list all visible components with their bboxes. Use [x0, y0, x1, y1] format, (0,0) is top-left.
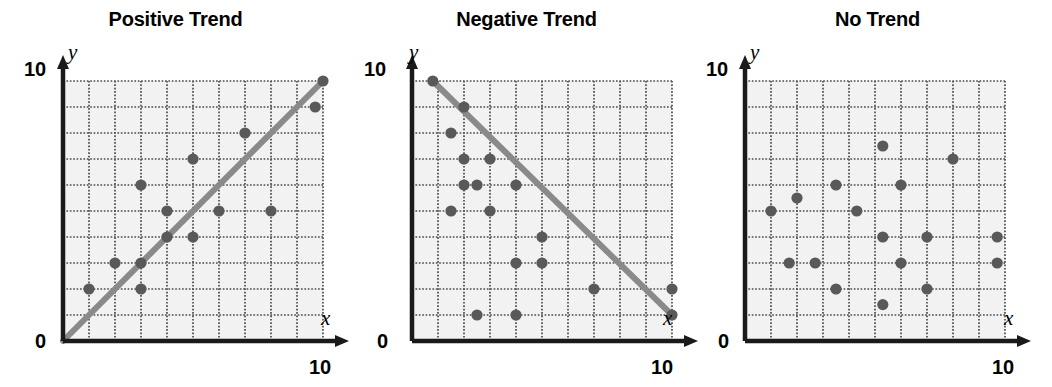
data-point[interactable]	[471, 179, 482, 190]
data-point[interactable]	[877, 299, 888, 310]
data-point[interactable]	[830, 283, 841, 294]
data-point[interactable]	[458, 179, 469, 190]
data-point[interactable]	[921, 283, 932, 294]
data-point[interactable]	[510, 179, 521, 190]
y-axis-label: y	[409, 42, 418, 63]
x-axis-label: x	[321, 308, 330, 329]
y-max-tick-label: 10	[24, 59, 46, 79]
data-point[interactable]	[510, 257, 521, 268]
origin-tick-label: 0	[718, 331, 729, 351]
figure-canvas: Positive Trend 10 0 10 y x Negative Tren…	[0, 0, 1052, 387]
data-point[interactable]	[317, 75, 328, 86]
data-point[interactable]	[83, 283, 94, 294]
data-point[interactable]	[445, 205, 456, 216]
plot-area-negative-trend: 10 0 10 y x	[351, 0, 702, 387]
x-axis-arrow-icon	[684, 335, 698, 347]
y-axis-label: y	[68, 42, 77, 63]
data-point[interactable]	[484, 153, 495, 164]
scatter-plot-svg	[0, 0, 351, 387]
data-point[interactable]	[213, 205, 224, 216]
data-point[interactable]	[784, 257, 795, 268]
data-point[interactable]	[791, 192, 802, 203]
x-max-tick-label: 10	[309, 357, 331, 377]
data-point[interactable]	[895, 179, 906, 190]
data-point[interactable]	[588, 283, 599, 294]
data-point[interactable]	[187, 231, 198, 242]
data-point[interactable]	[510, 309, 521, 320]
y-axis-label: y	[750, 42, 759, 63]
data-point[interactable]	[239, 127, 250, 138]
scatter-plot-svg	[351, 0, 702, 387]
data-point[interactable]	[187, 153, 198, 164]
origin-tick-label: 0	[35, 331, 46, 351]
data-point[interactable]	[536, 231, 547, 242]
data-point[interactable]	[877, 140, 888, 151]
x-axis-arrow-icon	[335, 335, 349, 347]
x-axis-arrow-icon	[1017, 335, 1031, 347]
y-max-tick-label: 10	[706, 59, 728, 79]
data-point[interactable]	[471, 309, 482, 320]
data-point[interactable]	[484, 205, 495, 216]
data-point[interactable]	[161, 231, 172, 242]
data-point[interactable]	[921, 231, 932, 242]
data-point[interactable]	[947, 153, 958, 164]
data-point[interactable]	[895, 257, 906, 268]
data-point[interactable]	[109, 257, 120, 268]
data-point[interactable]	[851, 205, 862, 216]
origin-tick-label: 0	[377, 331, 388, 351]
data-point[interactable]	[445, 127, 456, 138]
plot-area-no-trend: 10 0 10 y x	[702, 0, 1052, 387]
data-point[interactable]	[536, 257, 547, 268]
data-point[interactable]	[458, 101, 469, 112]
panel-positive-trend: Positive Trend 10 0 10 y x	[0, 0, 351, 387]
data-point[interactable]	[765, 205, 776, 216]
data-point[interactable]	[135, 179, 146, 190]
x-max-tick-label: 10	[651, 357, 673, 377]
plot-area-positive-trend: 10 0 10 y x	[0, 0, 351, 387]
data-point[interactable]	[830, 179, 841, 190]
data-point[interactable]	[310, 101, 321, 112]
data-point[interactable]	[810, 257, 821, 268]
data-point[interactable]	[427, 75, 438, 86]
data-point[interactable]	[135, 283, 146, 294]
data-point[interactable]	[666, 283, 677, 294]
data-point[interactable]	[161, 205, 172, 216]
data-point[interactable]	[877, 231, 888, 242]
panel-negative-trend: Negative Trend 10 0 10 y x	[351, 0, 702, 387]
data-point[interactable]	[992, 231, 1003, 242]
x-axis-label: x	[1004, 308, 1013, 329]
data-point[interactable]	[992, 257, 1003, 268]
data-point[interactable]	[135, 257, 146, 268]
x-axis-label: x	[663, 308, 672, 329]
panel-no-trend: No Trend 10 0 10 y x	[702, 0, 1052, 387]
y-max-tick-label: 10	[364, 59, 386, 79]
data-point[interactable]	[265, 205, 276, 216]
data-point[interactable]	[458, 153, 469, 164]
x-max-tick-label: 10	[992, 357, 1014, 377]
